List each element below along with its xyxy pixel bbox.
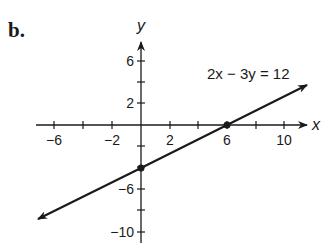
y-intercept-point <box>138 165 145 172</box>
y-axis-label: y <box>136 17 146 34</box>
y-tick-label: 2 <box>126 95 134 111</box>
x-tick-label: 6 <box>223 132 231 148</box>
x-tick-label: −6 <box>46 132 62 148</box>
x-tick-label: 10 <box>276 132 292 148</box>
y-tick-label: −6 <box>118 181 134 197</box>
y-tick-label: −10 <box>110 224 134 240</box>
equation-label: 2x − 3y = 12 <box>207 65 290 82</box>
x-tick-label: −2 <box>104 132 120 148</box>
x-axis-label: x <box>311 116 321 133</box>
x-intercept-point <box>224 122 231 129</box>
coordinate-plane: −6 −2 2 6 10 6 2 −6 −10 x y 2x − 3y = 12 <box>0 0 332 247</box>
x-tick-label: 2 <box>166 132 174 148</box>
y-tick-label: 6 <box>126 53 134 69</box>
